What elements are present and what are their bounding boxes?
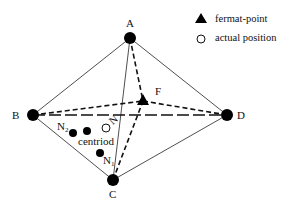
legend-actual-position-circle-icon xyxy=(197,35,205,43)
node-b xyxy=(27,109,39,121)
solid-edges xyxy=(33,38,227,180)
edge-b-f xyxy=(33,101,143,115)
label-centroid: centriod xyxy=(78,135,115,147)
edge-c-d xyxy=(113,115,227,180)
legend-label-actual-position: actual position xyxy=(215,32,277,43)
label-b: B xyxy=(12,109,19,121)
estimate-n2-dot xyxy=(69,129,77,137)
edge-b-c xyxy=(33,115,113,180)
fermat-point-triangle-icon xyxy=(137,94,149,105)
edge-f-d xyxy=(143,101,227,115)
legend-label-fermat-point: fermat-point xyxy=(215,13,268,24)
fermat-dashed-edges xyxy=(33,38,227,180)
anchor-nodes xyxy=(27,32,233,186)
legend: fermat-point actual position xyxy=(195,13,277,43)
actual-position-circle-icon xyxy=(102,124,110,132)
fermat-point-diagram: A B C D F N N2 centriod N1 fermat-point … xyxy=(0,0,294,212)
label-n2: N2 xyxy=(57,120,69,134)
centroid-dot xyxy=(83,127,91,135)
label-a: A xyxy=(126,17,134,29)
node-c xyxy=(107,174,119,186)
node-d xyxy=(221,109,233,121)
node-a xyxy=(124,32,136,44)
label-c: C xyxy=(109,188,116,200)
label-fermat: F xyxy=(155,85,161,97)
edge-a-b xyxy=(33,38,130,115)
edge-a-c xyxy=(113,38,130,180)
label-d: D xyxy=(237,109,245,121)
edge-a-f xyxy=(130,38,143,101)
label-n1: N1 xyxy=(103,154,115,168)
legend-fermat-triangle-icon xyxy=(195,13,207,23)
